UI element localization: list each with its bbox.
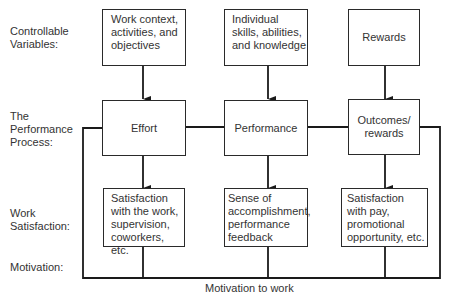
box-satisfaction-work: Satisfaction with the work, supervision,…: [103, 188, 185, 247]
box-individual-skills: Individual skills, abilities, and knowle…: [224, 9, 308, 66]
row-label-motivation: Motivation:: [10, 261, 63, 274]
motivation-to-work-caption: Motivation to work: [205, 282, 294, 294]
box-work-context: Work context, activities, and objectives: [102, 9, 186, 66]
box-sense-of-accomplishment: Sense of accomplishment, performance fee…: [224, 188, 308, 247]
box-satisfaction-pay: Satisfaction with pay, promotional oppor…: [341, 188, 428, 247]
box-outcomes-rewards: Outcomes/ rewards: [348, 99, 420, 155]
box-effort: Effort: [102, 100, 186, 156]
row-label-controllable-variables: Controllable Variables:: [10, 25, 69, 51]
row-label-work-satisfaction: Work Satisfaction:: [10, 207, 70, 233]
box-rewards: Rewards: [348, 9, 420, 66]
row-label-performance-process: The Performance Process:: [10, 110, 73, 149]
box-performance: Performance: [224, 100, 308, 156]
